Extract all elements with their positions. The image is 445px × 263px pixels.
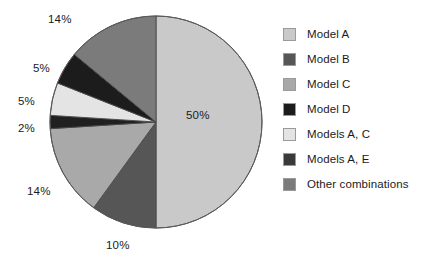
legend-swatch-icon [283,153,296,166]
legend-item-label: Models A, C [307,129,370,141]
legend-item[interactable]: Other combinations [283,172,441,197]
slice-label-model-c: 14% [27,186,51,198]
slice-label-model-a: 50% [186,110,210,122]
legend-item-label: Model D [307,104,351,116]
legend-item-label: Model B [307,54,350,66]
legend-item-label: Model C [307,79,351,91]
legend-swatch-icon [283,178,296,191]
legend-swatch-icon [283,28,296,41]
slice-label-model-b: 10% [106,240,130,252]
legend-swatch-icon [283,128,296,141]
pie-plot-area: 14% 5% 5% 2% 14% 10% 50% [0,0,270,263]
legend-item[interactable]: Model D [283,97,441,122]
pie-slices-group [50,16,262,228]
legend-swatch-icon [283,103,296,116]
legend-item-label: Other combinations [307,179,409,191]
legend-swatch-icon [283,78,296,91]
pie-slice[interactable] [156,16,262,228]
legend-item-label: Model A [307,29,349,41]
legend-item[interactable]: Model A [283,22,441,47]
legend-item-label: Models A, E [307,154,369,166]
chart-legend: Model AModel BModel CModel DModels A, CM… [283,22,441,197]
legend-item[interactable]: Model B [283,47,441,72]
legend-item[interactable]: Model C [283,72,441,97]
pie-chart-figure: 14% 5% 5% 2% 14% 10% 50% Model AModel BM… [0,0,445,263]
slice-label-models-a-e: 2% [18,123,35,135]
legend-swatch-icon [283,53,296,66]
legend-item[interactable]: Models A, E [283,147,441,172]
slice-label-model-d: 5% [33,63,50,75]
slice-label-models-a-c: 5% [18,96,35,108]
slice-label-other-combinations: 14% [48,14,72,26]
legend-item[interactable]: Models A, C [283,122,441,147]
pie-svg [0,0,270,263]
